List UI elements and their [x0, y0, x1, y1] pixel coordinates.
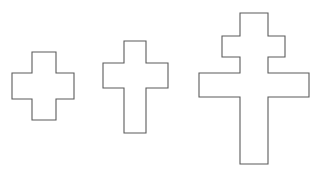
figure-canvas: Cross shapes outline figure [0, 0, 314, 176]
cross-figure: Cross shapes outline figure [0, 0, 314, 176]
cross-greek [12, 52, 74, 120]
cross-latin [103, 41, 168, 133]
cross-patriarchal [199, 13, 309, 164]
